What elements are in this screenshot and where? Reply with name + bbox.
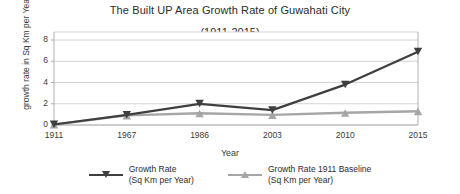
legend-entry-baseline: Growth Rate 1911 Baseline (Sq Km per Yea…: [228, 164, 371, 186]
chart-container: The Built UP Area Growth Rate of Guwahat…: [0, 0, 460, 194]
x-axis-tick-2010: 2010: [323, 130, 367, 140]
legend-label-growth-rate: Growth Rate (Sq Km per Year): [129, 164, 194, 186]
legend-marker-growth-rate: [89, 169, 123, 181]
x-axis-title: Year: [0, 148, 460, 158]
legend-series-unit-0: (Sq Km per Year): [129, 175, 194, 185]
x-axis-tick-1911: 1911: [32, 130, 76, 140]
legend-entry-growth-rate: Growth Rate (Sq Km per Year): [89, 164, 194, 186]
legend-label-baseline: Growth Rate 1911 Baseline (Sq Km per Yea…: [268, 164, 371, 186]
legend-series-name-0: Growth Rate: [129, 164, 177, 174]
x-axis-tick-1967: 1967: [105, 130, 149, 140]
chart-legend: Growth Rate (Sq Km per Year) Growth Rate…: [0, 164, 460, 186]
x-axis-tick-2015: 2015: [396, 130, 440, 140]
legend-series-name-1: Growth Rate 1911 Baseline: [268, 164, 371, 174]
legend-marker-baseline: [228, 169, 262, 181]
legend-series-unit-1: (Sq Km per Year): [268, 175, 333, 185]
x-axis-tick-2003: 2003: [250, 130, 294, 140]
x-axis-tick-1986: 1986: [178, 130, 222, 140]
